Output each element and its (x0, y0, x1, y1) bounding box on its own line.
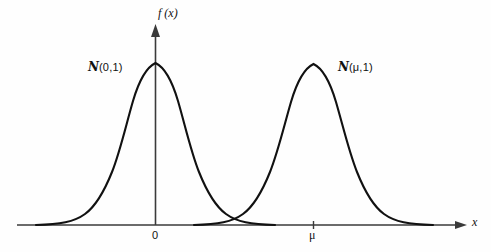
y-axis-label: f (x) (158, 7, 178, 19)
script-n-glyph-left: N (88, 60, 99, 74)
annotation-right-curve: N(μ,1) (338, 61, 373, 73)
annotation-left-params: (0,1) (99, 61, 123, 73)
annotation-right-params: (μ,1) (349, 61, 373, 73)
x-tick-label-0: 0 (152, 230, 158, 241)
normal-distributions-figure: f (x) x 0 μ N(0,1) N(μ,1) (0, 0, 491, 252)
x-axis-label: x (472, 216, 477, 228)
script-n-glyph-right: N (338, 60, 349, 74)
annotation-left-curve: N(0,1) (88, 61, 123, 73)
x-tick-label-mu: μ (309, 229, 315, 241)
plot-canvas (0, 0, 491, 252)
curve-shifted-normal (194, 64, 433, 225)
y-axis (151, 24, 160, 225)
